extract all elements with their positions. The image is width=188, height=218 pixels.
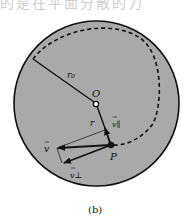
vec-arrow-glyph-v: → <box>44 138 49 145</box>
label-v-perp: v⊥ <box>70 171 82 180</box>
figure-caption: (b) <box>88 204 102 215</box>
label-v-parallel: v∥ <box>112 120 120 129</box>
point-p <box>108 142 114 148</box>
vec-arrow-glyph-vpar: → <box>112 113 117 120</box>
origin-point <box>93 101 98 106</box>
rotating-disk-diagram: r₀ O r v∥ P v v⊥ → → → (b) <box>0 0 188 218</box>
label-v: v <box>44 144 49 154</box>
label-r: r <box>90 118 95 128</box>
vec-arrow-glyph-vperp: → <box>70 164 75 171</box>
label-point-p: P <box>109 151 117 162</box>
label-r0: r₀ <box>67 70 75 80</box>
label-origin: O <box>92 88 100 99</box>
